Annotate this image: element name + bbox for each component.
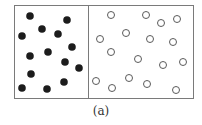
filled-particle bbox=[27, 70, 35, 78]
filled-particle bbox=[26, 52, 34, 60]
filled-particle bbox=[18, 84, 26, 92]
filled-particle bbox=[63, 16, 71, 24]
open-particle bbox=[144, 81, 151, 88]
filled-particle bbox=[26, 12, 34, 20]
open-particle bbox=[93, 78, 100, 85]
open-particle bbox=[147, 36, 154, 43]
filled-particle bbox=[61, 58, 69, 66]
open-particle bbox=[160, 62, 167, 69]
open-particle bbox=[143, 12, 150, 19]
container-box bbox=[15, 6, 194, 99]
open-particle bbox=[123, 30, 130, 37]
filled-particle bbox=[54, 30, 62, 38]
open-particle bbox=[173, 87, 180, 94]
open-particle bbox=[126, 75, 133, 82]
open-particle bbox=[180, 59, 187, 66]
open-particle bbox=[174, 16, 181, 23]
particle-diagram: (a) bbox=[0, 0, 202, 125]
open-particle bbox=[158, 20, 165, 27]
open-particle bbox=[108, 49, 115, 56]
filled-particle bbox=[44, 48, 52, 56]
filled-particle bbox=[75, 64, 83, 72]
filled-particle bbox=[43, 85, 51, 93]
left-panel-filled-particles bbox=[18, 12, 83, 93]
filled-particle bbox=[68, 43, 76, 51]
open-particle bbox=[108, 12, 115, 19]
filled-particle bbox=[18, 32, 26, 40]
figure-caption: (a) bbox=[0, 104, 202, 118]
open-particle bbox=[170, 39, 177, 46]
filled-particle bbox=[38, 25, 46, 33]
right-panel-open-particles bbox=[93, 12, 187, 94]
open-particle bbox=[135, 56, 142, 63]
open-particle bbox=[97, 36, 104, 43]
filled-particle bbox=[60, 78, 68, 86]
open-particle bbox=[109, 85, 116, 92]
